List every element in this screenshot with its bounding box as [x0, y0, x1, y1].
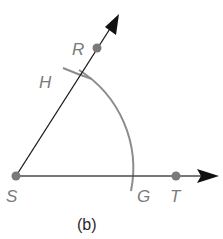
label-G: G: [137, 187, 150, 206]
label-R: R: [72, 40, 84, 59]
point-R: [93, 44, 102, 53]
compass-arc-mark-at-H: [63, 68, 92, 79]
ray-SR-arrowhead-icon: [105, 14, 119, 35]
construction-diagram: R H S G T (b): [0, 0, 223, 239]
figure-caption: (b): [77, 216, 97, 233]
compass-arc-center-S: [79, 70, 133, 191]
label-T: T: [170, 187, 182, 206]
geometry-figure: R H S G T (b): [0, 0, 223, 239]
label-S: S: [6, 187, 18, 206]
point-S: [12, 172, 21, 181]
label-H: H: [39, 73, 52, 92]
point-T: [172, 172, 181, 181]
